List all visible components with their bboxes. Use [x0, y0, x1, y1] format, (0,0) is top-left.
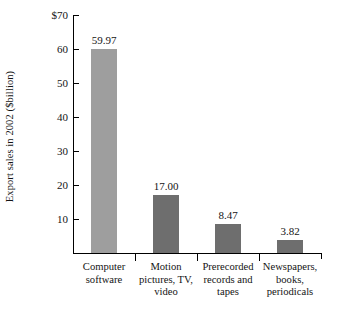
bar-value-label-2: 8.47: [198, 210, 258, 221]
x-axis-separator-1: [135, 254, 136, 261]
y-tick-30: [73, 151, 79, 152]
bar-value-label-3: 3.82: [260, 226, 320, 237]
y-tick-40: [73, 117, 79, 118]
x-category-label-line: records and: [199, 274, 257, 287]
y-tick-label-70-wrap: $70: [16, 10, 68, 21]
x-category-label-0: Computersoftware: [75, 261, 133, 286]
x-category-label-line: tapes: [199, 286, 257, 299]
x-category-label-line: pictures, TV,: [137, 274, 195, 287]
x-category-label-1: Motionpictures, TV,video: [137, 261, 195, 299]
y-tick-label-60-wrap: 60: [16, 44, 68, 55]
x-axis-end-cap: [321, 253, 322, 259]
y-tick-50: [73, 83, 79, 84]
x-category-label-line: Prerecorded: [199, 261, 257, 274]
y-tick-70: [73, 15, 79, 16]
bar-computer-software: [91, 49, 117, 253]
y-tick-20: [73, 185, 79, 186]
bar-motion-pictures-tv-video: [153, 195, 179, 253]
x-category-label-line: software: [75, 274, 133, 287]
y-tick-label-40-wrap: 40: [16, 112, 68, 123]
y-tick-label-30: 30: [16, 146, 68, 157]
y-tick-60: [73, 49, 79, 50]
bar-newspapers-books-periodicals: [277, 240, 303, 253]
bar-chart: Export sales in 2002 ($billion) $70 60 5…: [0, 0, 340, 314]
x-category-label-3: Newspapers,books,periodicals: [261, 261, 319, 299]
x-category-label-line: Computer: [75, 261, 133, 274]
y-tick-label-70: $70: [16, 10, 68, 21]
y-tick-label-10: 10: [16, 214, 68, 225]
y-tick-label-50: 50: [16, 78, 68, 89]
bar-value-label-0: 59.97: [74, 35, 134, 46]
plot-area: $70 60 50 40 30 20 10 59.97 17.00: [0, 0, 340, 314]
y-tick-label-10-wrap: 10: [16, 214, 68, 225]
x-category-label-2: Prerecordedrecords andtapes: [199, 261, 257, 299]
x-axis-separator-2: [197, 254, 198, 261]
y-tick-label-60: 60: [16, 44, 68, 55]
y-tick-label-40: 40: [16, 112, 68, 123]
y-tick-label-50-wrap: 50: [16, 78, 68, 89]
y-tick-10: [73, 219, 79, 220]
x-category-label-line: books,: [261, 274, 319, 287]
x-category-label-line: periodicals: [261, 286, 319, 299]
x-category-label-line: video: [137, 286, 195, 299]
bar-prerecorded-records-and-tapes: [215, 224, 241, 253]
x-category-label-line: Newspapers,: [261, 261, 319, 274]
bar-value-label-1: 17.00: [136, 181, 196, 192]
y-tick-label-20: 20: [16, 180, 68, 191]
y-tick-label-20-wrap: 20: [16, 180, 68, 191]
x-category-label-line: Motion: [137, 261, 195, 274]
y-tick-label-30-wrap: 30: [16, 146, 68, 157]
x-axis-separator-3: [259, 254, 260, 261]
